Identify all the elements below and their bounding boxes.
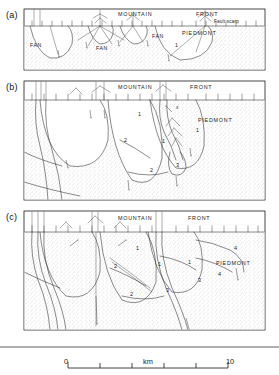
- label-piedmont-c: PIEDMONT: [216, 260, 250, 266]
- label-unit-c-9: 4: [218, 271, 221, 277]
- label-fan-a-1: FAN: [30, 42, 42, 48]
- label-piedmont-a: PIEDMONT: [182, 30, 216, 36]
- label-front-c: FRONT: [188, 215, 210, 221]
- label-mountain-c: MOUNTAIN: [118, 215, 152, 221]
- label-fault-scarp-a: Fault scarp: [214, 19, 239, 24]
- label-unit-c-4: 2: [114, 263, 117, 269]
- label-unit-b-2: 1: [162, 138, 165, 144]
- scale-unit-label: km: [143, 357, 153, 366]
- label-piedmont-b: PIEDMONT: [198, 117, 232, 123]
- label-unit-c-7: 3: [198, 277, 201, 283]
- scale-start-label: 0: [64, 357, 68, 366]
- label-unit-b-1: 1: [138, 111, 141, 117]
- panel-b: MOUNTAIN FRONT x PIEDMONT 1 1 1 2 2 3: [24, 81, 265, 200]
- label-fan-a-2: FAN: [96, 45, 108, 51]
- label-unit-c-2: 1: [158, 261, 161, 267]
- label-unit-b-5: 2: [150, 167, 153, 173]
- label-mountain-a: MOUNTAIN: [118, 11, 152, 17]
- panel-a: MOUNTAIN FRONT Fault scarp FAN FAN FAN P…: [24, 9, 265, 70]
- label-unit-b-6: 3: [176, 162, 179, 168]
- label-fan-a-3: FAN: [152, 33, 164, 39]
- cross-section-svg: MOUNTAIN FRONT Fault scarp FAN FAN FAN P…: [0, 0, 279, 375]
- label-unit-c-8: 4: [234, 245, 237, 251]
- label-unit-b-4: 2: [124, 137, 127, 143]
- figure-geological-cross-section: (a) (b) (c): [0, 0, 279, 375]
- label-front-a: FRONT: [196, 11, 218, 17]
- label-front-b: FRONT: [190, 84, 212, 90]
- panel-tag-b: (b): [6, 82, 18, 92]
- label-marker-x-b: x: [175, 105, 179, 110]
- label-mountain-b: MOUNTAIN: [118, 84, 152, 90]
- label-unit-b-3: 1: [196, 127, 199, 133]
- scale-end-label: 10: [226, 357, 234, 366]
- label-unit-c-6: 3: [166, 287, 169, 293]
- panel-c: MOUNTAIN FRONT PIEDMONT 1 1 1 2 2 3 3 4 …: [24, 211, 265, 332]
- label-unit-c-1: 1: [136, 245, 139, 251]
- label-unit-a-1: 1: [175, 42, 178, 48]
- label-unit-c-3: 1: [188, 259, 191, 265]
- label-unit-c-5: 2: [130, 291, 133, 297]
- scale-bar: 0 km 10: [0, 347, 279, 368]
- panel-tag-c: (c): [6, 212, 17, 222]
- panel-tag-a: (a): [6, 10, 18, 20]
